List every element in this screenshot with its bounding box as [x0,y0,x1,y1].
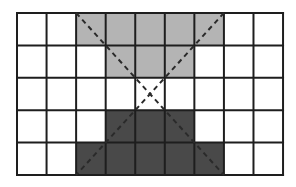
grid-cell-empty [17,45,47,77]
grid-cell-empty [224,13,254,45]
grid-cell-light [165,13,195,45]
grid-cell-dark [106,143,136,175]
grid-cell-empty [253,13,283,45]
grid-cell-empty [76,110,106,142]
grid-cell-empty [253,45,283,77]
grid-cell-empty [165,78,195,110]
grid-cell-dark [135,143,165,175]
grid-cell-empty [17,78,47,110]
grid-cell-empty [76,78,106,110]
grid-cell-empty [253,110,283,142]
grid-cell-empty [47,110,77,142]
grid-cell-empty [47,143,77,175]
grid-cell-empty [224,45,254,77]
grid-cell-empty [106,78,136,110]
grid-cell-empty [76,45,106,77]
grid-cell-dark [165,143,195,175]
grid-cell-empty [194,45,224,77]
grid-cell-empty [224,143,254,175]
grid-cell-empty [47,45,77,77]
grid-cell-empty [194,78,224,110]
grid-cell-empty [47,13,77,45]
grid-cell-empty [194,110,224,142]
grid-cell-light [106,13,136,45]
grid-cell-empty [253,143,283,175]
grid-cell-empty [17,143,47,175]
grid-diagram [0,0,296,187]
grid-cell-empty [47,78,77,110]
grid-cell-empty [224,78,254,110]
grid-cell-empty [17,13,47,45]
grid-cell-light [135,13,165,45]
grid-cell-dark [135,110,165,142]
grid-cell-empty [17,110,47,142]
grid-cell-empty [224,110,254,142]
grid-cell-light [135,45,165,77]
grid-cell-empty [253,78,283,110]
